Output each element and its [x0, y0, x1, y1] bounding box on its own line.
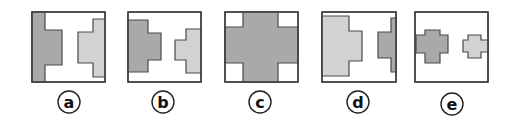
option-b[interactable]: b — [128, 12, 201, 113]
option-e[interactable]: e — [415, 12, 488, 115]
option-d-label: d — [352, 93, 363, 112]
option-a-label: a — [64, 93, 75, 112]
option-e-label: e — [447, 95, 458, 114]
option-c[interactable]: c — [225, 12, 298, 113]
figure-canvas: a b c d e — [0, 0, 510, 127]
option-d[interactable]: d — [322, 12, 396, 113]
option-b-label: b — [157, 93, 168, 112]
option-c-label: c — [255, 93, 264, 112]
option-a[interactable]: a — [32, 12, 105, 113]
